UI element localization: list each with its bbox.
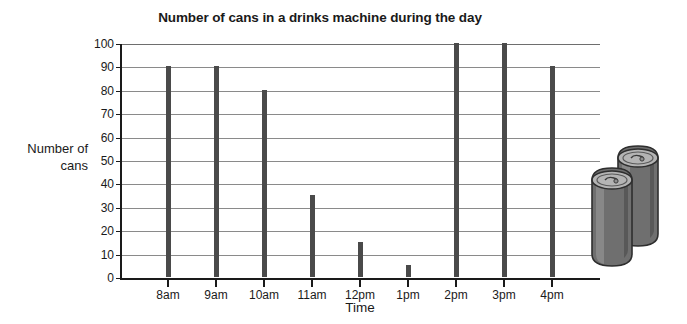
gridline [120,138,600,139]
y-tick-mark [116,255,120,256]
x-tick-mark [215,280,217,287]
x-tick-mark [455,280,457,287]
x-tick-mark [167,280,169,287]
gridline [120,184,600,185]
x-tick-mark [263,280,265,287]
chart-figure: Number of cans in a drinks machine durin… [0,0,687,324]
bar [550,66,555,277]
y-tick-label: 40 [84,178,114,190]
y-tick-mark [116,184,120,185]
y-axis-title-line-1: Number of [6,140,88,157]
y-tick-mark [116,114,120,115]
gridline [120,231,600,232]
x-tick-mark [359,280,361,287]
y-tick-label: 80 [84,85,114,97]
y-tick-mark [116,278,120,279]
bar [502,43,507,277]
y-tick-mark [116,161,120,162]
y-tick-label: 0 [84,272,114,284]
y-tick-label: 100 [84,38,114,50]
drinks-cans-illustration [580,138,680,268]
bar [262,90,267,277]
y-axis-title-line-2: cans [6,157,88,174]
x-tick-mark [503,280,505,287]
bar [358,242,363,277]
x-tick-mark [311,280,313,287]
bar [310,195,315,277]
gridline [120,208,600,209]
bar [454,43,459,277]
x-axis-title: Time [120,300,600,315]
x-tick-mark [551,280,553,287]
y-tick-mark [116,208,120,209]
y-axis-title: Number of cans [6,140,88,174]
gridline [120,161,600,162]
y-tick-mark [116,91,120,92]
y-tick-mark [116,44,120,45]
plot-area [120,44,600,279]
y-tick-label: 70 [84,108,114,120]
gridline [120,91,600,92]
bar [406,265,411,277]
can-front [592,168,632,266]
y-tick-label: 50 [84,155,114,167]
gridline [120,67,600,68]
bar [166,66,171,277]
x-tick-mark [407,280,409,287]
y-tick-label: 30 [84,202,114,214]
y-tick-label: 10 [84,249,114,261]
y-tick-mark [116,67,120,68]
drinks-cans-icon [580,138,680,268]
y-tick-mark [116,138,120,139]
bar [214,66,219,277]
y-tick-label: 20 [84,225,114,237]
gridline [120,114,600,115]
y-tick-label: 90 [84,61,114,73]
chart-title: Number of cans in a drinks machine durin… [0,10,640,25]
gridline [120,44,600,45]
y-tick-label: 60 [84,132,114,144]
y-tick-mark [116,231,120,232]
y-axis-line [120,44,122,280]
